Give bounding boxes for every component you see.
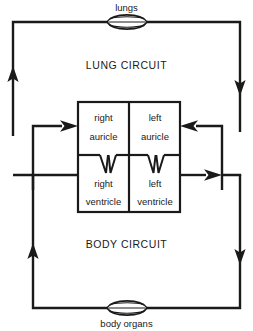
left-ventricle-label-line1: left [149, 178, 162, 189]
lung-left-rail [13, 22, 107, 131]
mitral-valve-icon-2 [156, 155, 164, 173]
left-auricle-label-line2: auricle [141, 131, 169, 142]
lung-circuit-path [13, 22, 240, 136]
left-auricle-inlet-path [196, 126, 222, 190]
body-organs-label: body organs [100, 318, 153, 329]
right-auricle-label-line1: right [94, 112, 113, 123]
right-auricle-outlet-path [33, 126, 62, 190]
left-ventricle-outlet-rail-2 [222, 175, 240, 176]
body-organs-icon [107, 301, 147, 315]
diagram-canvas: lungs LUNG CIRCUIT [0, 0, 253, 331]
tricuspid-valve-icon-2 [109, 155, 116, 173]
right-auricle-label-line2: auricle [90, 131, 118, 142]
left-auricle-inlet-rail [196, 126, 222, 190]
tricuspid-valve-icon [100, 155, 108, 173]
right-ventricle-label-line2: ventricle [86, 196, 121, 207]
circulatory-diagram: lungs LUNG CIRCUIT [0, 0, 253, 331]
left-auricle-label-line1: left [149, 112, 162, 123]
left-ventricle-label-line2: ventricle [137, 196, 172, 207]
lung-circuit-label: LUNG CIRCUIT [86, 59, 167, 71]
mitral-valve-icon [148, 155, 156, 173]
into-left-auricle-arrow-icon [180, 120, 198, 132]
lungs-label: lungs [115, 2, 138, 13]
out-of-right-auricle-arrow-icon [60, 120, 78, 132]
body-circuit-label: BODY CIRCUIT [86, 238, 168, 250]
right-auricle-outlet-rail [33, 126, 62, 190]
out-of-left-ventricle-arrow-icon [204, 169, 222, 181]
lungs-icon [107, 15, 147, 29]
right-ventricle-label-line1: right [94, 178, 113, 189]
